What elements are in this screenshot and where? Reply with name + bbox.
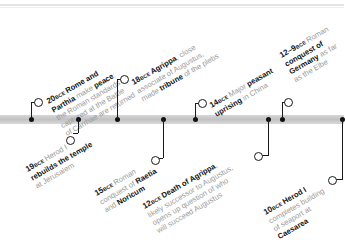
connector-vertical (195, 104, 196, 119)
event-ring-marker (120, 75, 129, 84)
event-label-20bce: 20BCE Rome andParthia make peace:the Rom… (45, 58, 137, 138)
connector-vertical (163, 119, 164, 158)
connector-vertical (31, 103, 32, 119)
event-label-18bce: 18BCE Agrippa, closeassociate of Augustu… (130, 35, 220, 103)
connector-vertical (282, 103, 283, 119)
connector-vertical (342, 119, 343, 179)
top-rule (0, 4, 344, 6)
event-label-12bce: 12BCE Death of Agrippa,likely successor … (141, 154, 244, 235)
event-label-14bce: 14BCE Major peasantuprising in China (208, 66, 279, 118)
connector-vertical (78, 119, 79, 133)
timeline-bar (0, 115, 344, 124)
event-ring-marker (284, 98, 293, 107)
event-label-19bce: 19BCE Herod Irebuilds the templeat Jerus… (24, 131, 98, 190)
event-ring-marker (328, 176, 337, 185)
connector-vertical (117, 80, 118, 119)
connector-vertical (268, 119, 269, 155)
event-ring-marker (254, 152, 263, 161)
event-ring-marker (34, 98, 43, 107)
event-label-10bce: 10BCE Herod Icompletes buildingof seapor… (262, 178, 335, 240)
top-rule-secondary (0, 7, 344, 8)
connector-horizontal (262, 155, 269, 156)
event-label-12-9bce: 12–9BCE Romanconquest ofGermany as faras… (278, 24, 344, 84)
event-ring-marker (198, 99, 207, 108)
